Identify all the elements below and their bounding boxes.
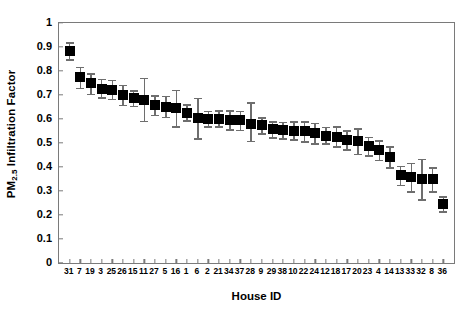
- x-axis-tick-mark: [421, 259, 422, 263]
- x-axis-tick-mark: [368, 259, 369, 263]
- error-bar-cap-upper: [301, 121, 309, 123]
- data-point-marker: [396, 170, 406, 180]
- error-bar-cap-upper: [354, 128, 362, 130]
- x-axis-tick-label: 10: [288, 266, 297, 276]
- x-axis-tick-mark: [154, 259, 155, 263]
- error-bar-cap-lower: [407, 191, 415, 193]
- data-point-marker: [321, 131, 331, 141]
- x-axis-tick-label: 27: [149, 266, 158, 276]
- x-axis-tick-label: 3: [98, 266, 103, 276]
- x-axis-tick-mark: [432, 259, 433, 263]
- x-axis-title: House ID: [58, 290, 455, 302]
- error-bar-cap-lower: [226, 129, 234, 131]
- error-bar-cap-lower: [140, 121, 148, 123]
- error-bar-cap-upper: [439, 196, 447, 198]
- x-axis-tick-label: 37: [235, 266, 244, 276]
- x-axis-tick-label: 12: [320, 266, 329, 276]
- error-bar-cap-lower: [162, 117, 170, 119]
- error-bar-cap-lower: [76, 88, 84, 90]
- x-axis-tick-label: 14: [384, 266, 393, 276]
- y-axis-tick-mark: [59, 94, 63, 95]
- error-bar-cap-upper: [365, 137, 373, 139]
- x-axis-tick-label: 6: [194, 266, 199, 276]
- error-bar-cap-lower: [418, 199, 426, 201]
- data-point-marker: [438, 199, 448, 209]
- error-bar-cap-upper: [311, 123, 319, 125]
- y-axis-tick-label: 0: [46, 256, 52, 268]
- x-axis-tick-label: 20: [352, 266, 361, 276]
- y-axis-tick-mark: [59, 46, 63, 47]
- error-bar-cap-upper: [226, 110, 234, 112]
- y-axis-title-prefix: PM: [5, 181, 17, 198]
- error-bar-cap-lower: [247, 141, 255, 143]
- data-point-marker: [342, 135, 352, 145]
- x-axis-tick-mark: [251, 259, 252, 263]
- x-axis-tick-label: 34: [224, 266, 233, 276]
- y-axis-title: PM2.5 Infiltration Factor: [0, 0, 24, 268]
- x-axis-tick-mark: [101, 259, 102, 263]
- error-bar-cap-lower: [98, 97, 106, 99]
- error-bar-cap-upper: [172, 90, 180, 92]
- x-axis-tick-mark: [336, 259, 337, 263]
- error-bar-cap-upper: [204, 111, 212, 113]
- x-axis-tick-mark: [218, 259, 219, 263]
- error-bar-cap-lower: [204, 126, 212, 128]
- error-bar-cap-lower: [66, 59, 74, 61]
- x-axis-tick-label: 4: [376, 266, 381, 276]
- error-bar-cap-upper: [66, 42, 74, 44]
- x-axis-tick-mark: [165, 259, 166, 263]
- y-axis-tick-label: 0.9: [37, 40, 52, 52]
- error-bar-cap-upper: [236, 111, 244, 113]
- data-point-marker: [65, 46, 75, 56]
- chart-figure: PM2.5 Infiltration Factor 00.10.20.30.40…: [0, 0, 475, 317]
- data-point-marker: [182, 108, 192, 118]
- error-bar-cap-upper: [269, 121, 277, 123]
- error-bar-cap-lower: [269, 137, 277, 139]
- y-axis-tick-label: 1: [46, 16, 52, 28]
- error-bar-cap-lower: [183, 120, 191, 122]
- x-axis-tick-mark: [80, 259, 81, 263]
- y-axis-tick-mark: [59, 166, 63, 167]
- x-axis-tick-mark: [379, 259, 380, 263]
- error-bar-cap-upper: [343, 130, 351, 132]
- x-axis-tick-label: 32: [416, 266, 425, 276]
- x-axis-tick-label: 25: [107, 266, 116, 276]
- x-axis-tick-mark: [357, 259, 358, 263]
- error-bar-cap-upper: [407, 163, 415, 165]
- x-axis-tick-mark: [186, 259, 187, 263]
- y-axis-tick-label: 0.2: [37, 208, 52, 220]
- y-axis-tick-mark: [59, 22, 63, 23]
- error-bar-cap-lower: [215, 126, 223, 128]
- data-point-marker: [278, 125, 288, 135]
- plot-area: [58, 22, 455, 264]
- error-bar-cap-upper: [386, 146, 394, 148]
- y-axis-tick-label: 0.4: [37, 160, 52, 172]
- x-axis-tick-mark: [197, 259, 198, 263]
- data-point-marker: [118, 90, 128, 100]
- y-axis-tick-mark: [59, 214, 63, 215]
- data-point-marker: [300, 126, 310, 136]
- data-point-marker: [161, 102, 171, 112]
- x-axis-tick-mark: [389, 259, 390, 263]
- x-axis-tick-label: 29: [267, 266, 276, 276]
- error-bar-cap-lower: [151, 115, 159, 117]
- y-axis-title-suffix: Infiltration Factor: [5, 70, 17, 170]
- y-axis-tick-label: 0.3: [37, 184, 52, 196]
- data-point-marker: [139, 95, 149, 105]
- data-point-marker: [246, 119, 256, 129]
- error-bar-cap-upper: [76, 67, 84, 69]
- data-point-marker: [364, 141, 374, 151]
- error-bar-cap-lower: [236, 130, 244, 132]
- y-axis-tick-label: 0.5: [37, 136, 52, 148]
- x-axis-tick-mark: [272, 259, 273, 263]
- error-bar-cap-upper: [322, 127, 330, 129]
- error-bar-cap-lower: [290, 139, 298, 141]
- data-point-marker: [310, 128, 320, 138]
- error-bar-cap-upper: [397, 166, 405, 168]
- error-bar-cap-lower: [172, 126, 180, 128]
- error-bar-cap-lower: [354, 154, 362, 156]
- error-bar-cap-lower: [397, 185, 405, 187]
- error-bar-cap-upper: [418, 159, 426, 161]
- error-bar-cap-lower: [108, 99, 116, 101]
- error-bar-cap-lower: [322, 143, 330, 145]
